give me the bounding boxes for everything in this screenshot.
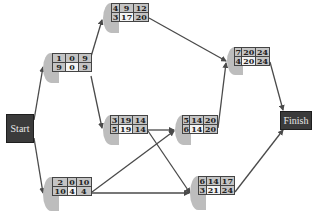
node-cell: 24 xyxy=(220,186,234,195)
node-cell: 5 xyxy=(111,125,119,134)
edge-5-7 xyxy=(218,63,226,128)
activity-node-4: 4912 31720 xyxy=(103,3,149,33)
node-cell: 10 xyxy=(53,187,68,196)
node-cell: 20 xyxy=(242,57,256,66)
start-label: Start xyxy=(11,123,30,134)
node-cell: 4 xyxy=(235,57,242,66)
node-cell: 4 xyxy=(68,187,76,196)
activity-node-1: 109 909 xyxy=(43,53,92,83)
edge-start-2 xyxy=(34,138,43,193)
activity-node-3: 31914 51914 xyxy=(103,115,148,145)
edge-7-finish xyxy=(270,62,283,110)
node-cell: 9 xyxy=(53,63,66,72)
activity-node-7: 72024 42024 xyxy=(227,47,270,75)
node-cell: 9 xyxy=(79,63,92,72)
start-node: Start xyxy=(6,114,34,143)
finish-node: Finish xyxy=(280,111,312,130)
node-cell: 14 xyxy=(190,125,204,134)
node-cell: 21 xyxy=(206,186,220,195)
node-cell: 6 xyxy=(183,125,190,134)
node-cell: 3 xyxy=(199,186,207,195)
edge-start-1 xyxy=(34,67,43,120)
activity-node-2: 2010 1044 xyxy=(43,177,92,211)
node-cell: 4 xyxy=(76,187,91,196)
node-cell: 24 xyxy=(256,57,270,66)
node-cell: 0 xyxy=(66,63,79,72)
node-cell: 14 xyxy=(133,125,148,134)
node-cell: 17 xyxy=(119,13,134,22)
node-cell: 20 xyxy=(204,125,218,134)
finish-label: Finish xyxy=(283,115,308,126)
node-cell: 3 xyxy=(112,13,120,22)
edge-6-finish xyxy=(235,130,283,192)
activity-node-5: 51420 61420 xyxy=(175,115,218,145)
node-cell: 19 xyxy=(118,125,133,134)
edge-1-3 xyxy=(91,76,102,128)
node-cell: 20 xyxy=(134,13,149,22)
activity-node-6: 61417 32124 xyxy=(190,176,235,210)
edge-4-7 xyxy=(149,18,226,61)
